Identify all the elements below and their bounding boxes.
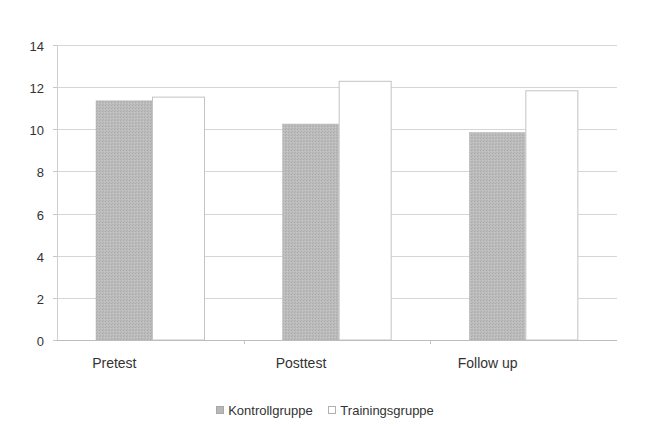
legend: Kontrollgruppe Trainingsgruppe <box>0 402 650 418</box>
legend-item-trainingsgruppe: Trainingsgruppe <box>328 403 433 418</box>
x-category-label: Posttest <box>276 355 327 371</box>
bar-kontrollgruppe <box>283 124 339 340</box>
x-category-label: Pretest <box>92 355 136 371</box>
y-tick-label: 6 <box>37 208 44 223</box>
legend-swatch-kontroll-icon <box>216 406 224 414</box>
bar-trainingsgruppe <box>526 91 578 340</box>
y-tick-label: 0 <box>37 334 44 349</box>
bar-kontrollgruppe <box>469 132 525 340</box>
bar-kontrollgruppe <box>96 101 152 340</box>
bar-trainingsgruppe <box>153 97 205 340</box>
y-tick-label: 14 <box>30 39 44 54</box>
x-axis: PretestPosttestFollow up <box>57 340 617 371</box>
bar-trainingsgruppe <box>339 81 391 340</box>
y-tick-label: 12 <box>30 81 44 96</box>
bar-chart: 02468101214 PretestPosttestFollow up <box>0 0 650 426</box>
y-tick-label: 2 <box>37 292 44 307</box>
legend-item-kontrollgruppe: Kontrollgruppe <box>216 403 313 418</box>
x-category-label: Follow up <box>458 355 518 371</box>
legend-label: Kontrollgruppe <box>228 403 313 418</box>
legend-label: Trainingsgruppe <box>340 403 433 418</box>
legend-swatch-training-icon <box>328 406 336 414</box>
y-tick-label: 10 <box>30 123 44 138</box>
y-axis: 02468101214 <box>30 39 58 349</box>
y-tick-label: 4 <box>37 250 44 265</box>
y-tick-label: 8 <box>37 165 44 180</box>
bars <box>96 81 578 340</box>
